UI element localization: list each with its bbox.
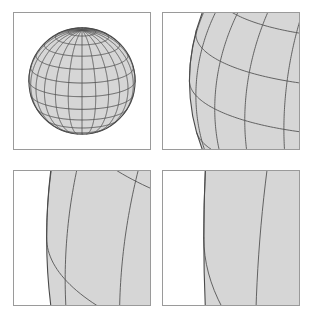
panel-sphere-limb-zoom-3: [162, 170, 300, 306]
sphere-limb-zoom-2-plot: [14, 171, 150, 305]
panel-sphere-overview: [13, 12, 151, 150]
sphere-limb-zoom-1-plot: [163, 13, 299, 149]
panel-sphere-limb-zoom-1: [162, 12, 300, 150]
sphere-limb-zoom-3-plot: [163, 171, 299, 305]
sphere-overview-plot: [14, 13, 150, 149]
panel-sphere-limb-zoom-2: [13, 170, 151, 306]
zoom-sequence-figure: [0, 0, 312, 318]
